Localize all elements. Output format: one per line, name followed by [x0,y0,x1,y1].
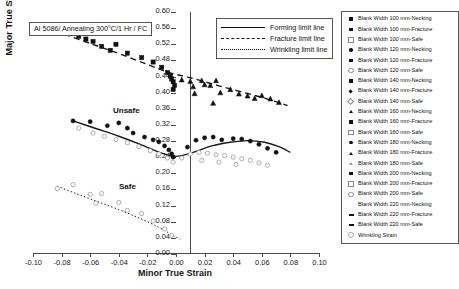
data-point [137,145,141,149]
marker-legend-item: Blank Width 220 mm-Safe [344,220,456,230]
data-point [131,131,135,135]
marker-legend-item: Blank Width 100 mm-Necking [344,14,456,24]
marker-legend-item: Blank Width 100 mm-Safe [344,35,456,45]
data-point [151,219,155,223]
x-tick-label: -0.08 [54,258,71,267]
data-point [192,91,197,96]
marker-legend-label: Blank Width 180 mm-Necking [358,140,432,146]
data-point [274,150,278,154]
data-point [71,119,75,123]
data-point [223,153,227,157]
marker-legend-glyph [346,204,356,205]
data-point [240,137,244,141]
marker-legend-glyph [346,99,356,104]
data-point [205,151,209,155]
data-point [170,233,174,237]
data-point [151,138,155,142]
marker-legend-label: Blank Width 220 mm-Fracture [358,212,432,218]
data-point [125,141,129,145]
marker-legend-item: Blank Width 200 mm-Fracture [344,179,456,189]
marker-legend-item: Blank Width 160 mm-Safe [344,127,456,137]
line-legend-swatch [221,24,265,31]
data-series [77,34,177,91]
x-tick-label: -0.10 [25,258,42,267]
marker-legend-label: Blank Width 200 mm-Fracture [358,181,432,187]
data-point [71,183,75,187]
data-point [140,212,144,216]
marker-legend-label: Blank Width 140 mm-Fracture [358,88,432,94]
line-legend-swatch [221,35,265,42]
data-point [88,120,92,124]
line-legend-label: Forming limit line [270,23,324,32]
data-point [172,83,176,87]
marker-legend-item: Blank Width 200 mm-Safe [344,189,456,199]
x-tick-label: -0.06 [82,258,99,267]
marker-legend-glyph [346,232,356,238]
marker-legend-label: Blank Width 220 mm-Necking [358,202,432,208]
marker-legend-glyph [346,120,356,124]
data-series [179,77,281,105]
marker-legend-item: Blank Width 100 mm-Fracture [344,24,456,34]
line-legend: Forming limit lineFracture limit lineWri… [216,18,333,59]
data-point [200,158,204,162]
marker-legend-item: Blank Width 220 mm-Fracture [344,210,456,220]
marker-legend-label: Blank Width 100 mm-Necking [358,16,432,22]
data-point [240,157,244,161]
data-point [259,93,264,98]
line-legend-label: Wrinkling limit line [270,45,327,54]
data-point [220,138,224,142]
data-point [171,160,175,164]
marker-legend-item: Blank Width 220 mm-Necking [344,199,456,209]
marker-legend-label: Blank Width 220 mm-Safe [358,222,423,228]
x-axis-title: Minor True Strain [30,268,320,278]
marker-legend-glyph [346,162,356,165]
data-point [105,124,109,128]
data-point [231,137,235,141]
marker-legend-item: Blank Width 160 mm-Fracture [344,117,456,127]
data-point [100,44,104,48]
data-point [171,155,175,159]
marker-legend-label: Blank Width 180 mm-Fracture [358,150,432,156]
marker-legend-glyph [346,181,356,187]
data-point [157,140,161,144]
marker-legend-item: Blank Width 180 mm-Safe [344,158,456,168]
x-tick-label: 0.08 [284,258,299,267]
data-point [125,126,129,130]
data-point [185,145,189,149]
marker-legend-glyph [346,59,356,63]
data-point [157,152,161,156]
data-point [197,150,201,154]
data-series [71,119,278,159]
marker-legend-label: Blank Width 180 mm-Safe [358,161,423,167]
marker-legend-item: Blank Width 140 mm-Necking [344,76,456,86]
data-point [55,187,59,191]
data-point [140,55,144,59]
marker-legend-glyph [346,79,356,83]
data-point [162,227,166,231]
data-point [257,161,261,165]
marker-legend-glyph [346,90,356,93]
data-point [148,149,152,153]
data-point [88,192,92,196]
data-point [191,84,196,89]
marker-legend-glyph [346,192,356,197]
marker-legend-item: Blank Width 120 mm-Necking [344,45,456,55]
marker-legend-label: Wrinkling Strain [358,233,397,239]
data-point [257,142,261,146]
line-legend-item: Forming limit line [221,22,327,33]
line-legend-swatch [221,46,265,53]
data-point [114,42,118,46]
marker-legend-label: Blank Width 100 mm-Safe [358,37,423,43]
data-point [179,77,184,82]
data-point [125,208,129,212]
line-legend-label: Fracture limit line [270,34,325,43]
marker-legend-glyph [346,28,356,32]
data-point [180,156,184,160]
marker-legend-item: Wrinkling Strain [344,230,456,240]
marker-legend-label: Blank Width 140 mm-Necking [358,78,432,84]
marker-legend-label: Blank Width 140 mm-Safe [358,99,423,105]
data-point [84,37,88,41]
marker-legend-glyph [346,224,356,226]
marker-legend-glyph [346,152,356,155]
